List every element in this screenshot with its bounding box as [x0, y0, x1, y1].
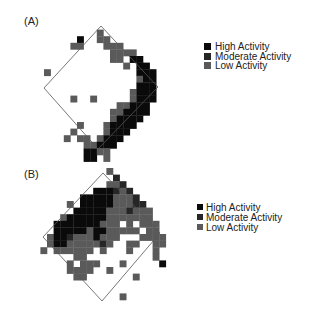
- panel-a-cell-high: [84, 148, 91, 155]
- panel-a-cell-high: [90, 155, 97, 162]
- panel-a-cell-high: [90, 148, 97, 155]
- legend-a-swatch-high: [204, 43, 211, 50]
- panel-b-cell-low: [113, 201, 120, 208]
- panel-a-cell-low: [103, 129, 110, 136]
- panel-a-cell-low: [110, 109, 117, 116]
- panel-a-cell-low: [130, 49, 137, 56]
- panel-a-cells: [44, 30, 157, 162]
- panel-a-cell-high: [110, 122, 117, 129]
- panel-a-cell-high: [136, 89, 143, 96]
- panel-b-cell-moderate: [139, 201, 146, 208]
- panel-b-cell-high: [60, 234, 67, 241]
- panel-b-cell-high: [93, 227, 100, 234]
- panel-a-cell-low: [110, 43, 117, 50]
- panel-b-cell-low: [106, 208, 113, 215]
- panel-a-cell-high: [130, 122, 137, 129]
- panel-b-cell-low: [47, 234, 54, 241]
- panel-b-cell-low: [120, 201, 127, 208]
- panel-b-cell-low: [100, 234, 107, 241]
- panel-b-cell-low: [120, 208, 127, 215]
- panel-a-cell-high: [117, 129, 124, 136]
- panel-a-cell-high: [103, 135, 110, 142]
- panel-b-cell-high: [80, 208, 87, 215]
- panel-a-cell-high: [130, 115, 137, 122]
- panel-b-cell-high: [106, 188, 113, 195]
- panel-a-cell-high: [77, 36, 84, 43]
- panel-b-cell-high: [80, 194, 87, 201]
- panel-a-cell-low: [110, 115, 117, 122]
- panel-b-cell-low: [146, 208, 153, 215]
- panel-b-cell-moderate: [126, 188, 133, 195]
- panel-b-cell-high: [93, 221, 100, 228]
- panel-b-cell-low: [153, 254, 160, 261]
- panel-b-cell-low: [87, 234, 94, 241]
- panel-b-cell-low: [67, 241, 74, 248]
- panel-b-cell-low: [139, 234, 146, 241]
- panel-b-cell-low: [80, 254, 87, 261]
- panel-b-cell-low: [126, 221, 133, 228]
- panel-b-cell-high: [100, 214, 107, 221]
- panel-b-cell-low: [73, 274, 80, 281]
- panel-a: (A) High Activity Moderate Activity Low …: [24, 15, 291, 162]
- panel-b-legend: High Activity Moderate Activity Low Acti…: [197, 202, 282, 233]
- panel-a-cell-high: [130, 56, 137, 63]
- panel-b-cell-moderate: [126, 208, 133, 215]
- panel-b-cell-high: [80, 201, 87, 208]
- panel-b-label: (B): [24, 168, 39, 180]
- panel-b-cell-low: [80, 260, 87, 267]
- panel-b-cell-low: [153, 241, 160, 248]
- panel-b-cell-moderate: [133, 194, 140, 201]
- panel-b-cell-high: [93, 194, 100, 201]
- panel-a-cell-low: [97, 135, 104, 142]
- panel-b-cell-low: [106, 227, 113, 234]
- panel-b-cell-high: [100, 208, 107, 215]
- panel-b-cell-low: [113, 221, 120, 228]
- panel-b-cell-high: [87, 208, 94, 215]
- panel-b-cell-low: [80, 274, 87, 281]
- panel-b-cell-low: [113, 214, 120, 221]
- panel-a-cell-low: [117, 102, 124, 109]
- panel-b-cell-low: [113, 234, 120, 241]
- panel-a-cell-high: [136, 63, 143, 70]
- panel-b-cell-high: [67, 214, 74, 221]
- panel-b-cell-high: [60, 221, 67, 228]
- panel-a-cell-high: [136, 109, 143, 116]
- panel-b-cell-high: [87, 221, 94, 228]
- panel-b-cell-low: [93, 241, 100, 248]
- panel-a-cell-high: [143, 82, 150, 89]
- panel-a-cell-high: [97, 142, 104, 149]
- panel-b-cell-low: [113, 194, 120, 201]
- panel-b-cell-high: [54, 234, 61, 241]
- panel-a-cell-high: [117, 135, 124, 142]
- panel-a-cell-high: [143, 109, 150, 116]
- panel-a-cell-high: [136, 96, 143, 103]
- legend-b-swatch-low: [197, 224, 203, 230]
- panel-b-cell-low: [139, 208, 146, 215]
- panel-b-cell-low: [73, 234, 80, 241]
- panel-b-cell-high: [73, 214, 80, 221]
- panel-b-cell-low: [106, 168, 113, 175]
- panel-a-cell-low: [70, 43, 77, 50]
- activity-figure: (A) High Activity Moderate Activity Low …: [0, 0, 314, 312]
- panel-a-cell-low: [97, 30, 104, 37]
- panel-a-cell-low: [123, 63, 130, 70]
- panel-a-cell-low: [110, 49, 117, 56]
- panel-b-cell-low: [146, 234, 153, 241]
- panel-b-cell-low: [126, 201, 133, 208]
- panel-a-cell-low: [70, 129, 77, 136]
- panel-a-cell-high: [150, 82, 157, 89]
- panel-b-cell-high: [106, 201, 113, 208]
- panel-a-cell-high: [136, 115, 143, 122]
- panel-b-cell-low: [120, 214, 127, 221]
- panel-a-cell-low: [90, 142, 97, 149]
- panel-b-cell-high: [100, 201, 107, 208]
- panel-b-cell-moderate: [133, 201, 140, 208]
- panel-b-cell-high: [80, 221, 87, 228]
- panel-a-cell-high: [150, 96, 157, 103]
- panel-a-cell-low: [117, 109, 124, 116]
- panel-a-cell-low: [103, 148, 110, 155]
- panel-b-cell-low: [126, 214, 133, 221]
- panel-b-cell-low: [87, 260, 94, 267]
- panel-a-cell-low: [103, 122, 110, 129]
- panel-b-cell-high: [73, 227, 80, 234]
